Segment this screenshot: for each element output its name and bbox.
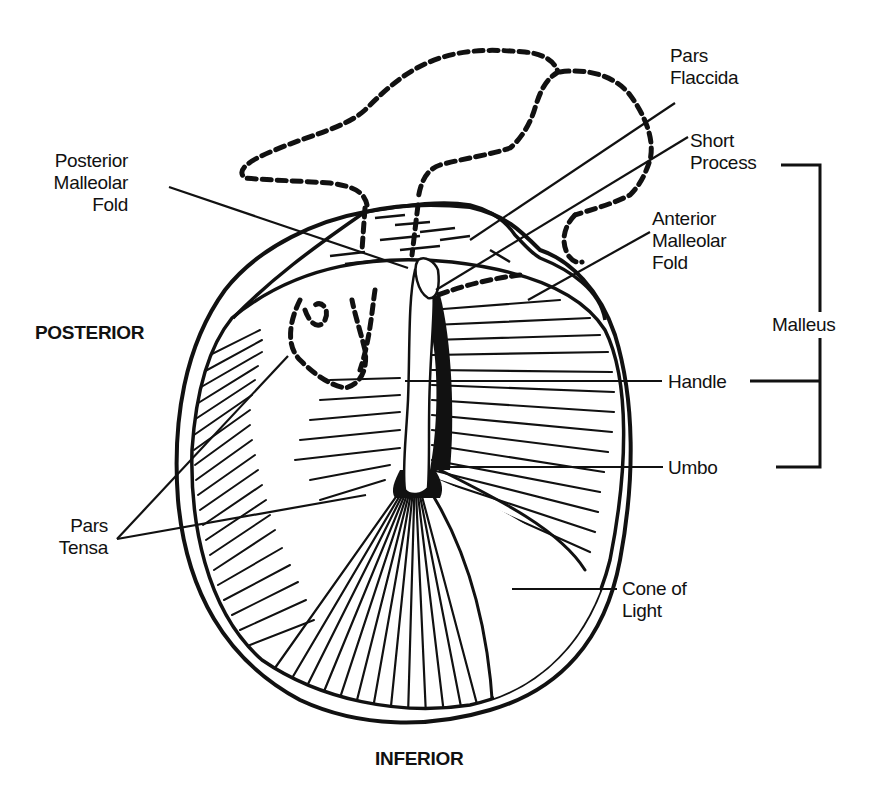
label-pars-flaccida: Pars Flaccida xyxy=(670,45,738,89)
orientation-inferior: INFERIOR xyxy=(375,748,463,770)
label-cone-of-light: Cone of Light xyxy=(622,578,686,622)
tympanic-membrane-illustration xyxy=(0,0,875,799)
label-anterior-malleolar-fold: Anterior Malleolar Fold xyxy=(652,208,726,274)
pars-tensa-hatching xyxy=(194,295,614,716)
label-short-process: Short Process xyxy=(690,130,757,174)
label-malleus: Malleus xyxy=(772,314,835,336)
label-pars-tensa: Pars Tensa xyxy=(40,515,108,559)
label-posterior-malleolar-fold: Posterior Malleolar Fold xyxy=(20,150,128,216)
label-handle: Handle xyxy=(668,371,726,393)
label-umbo: Umbo xyxy=(668,457,717,479)
orientation-posterior: POSTERIOR xyxy=(35,322,144,344)
